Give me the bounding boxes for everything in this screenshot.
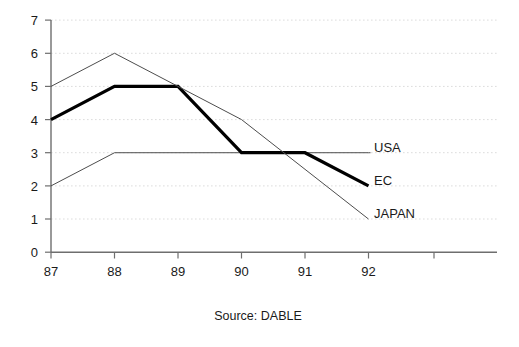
y-tick-label-0: 0 <box>31 245 38 260</box>
x-tick-marks <box>51 252 434 258</box>
y-tick-marks <box>45 20 51 252</box>
x-tick-label-92: 92 <box>361 264 375 279</box>
gridlines <box>51 20 497 219</box>
x-tick-label-91: 91 <box>298 264 312 279</box>
x-tick-label-88: 88 <box>107 264 121 279</box>
y-tick-label-6: 6 <box>31 46 38 61</box>
y-tick-label-3: 3 <box>31 146 38 161</box>
x-tick-label-90: 90 <box>234 264 248 279</box>
series-leaders <box>369 153 371 221</box>
y-tick-label-5: 5 <box>31 79 38 94</box>
y-tick-label-1: 1 <box>31 212 38 227</box>
series-label-japan: JAPAN <box>374 206 415 221</box>
y-tick-labels: 7 6 5 4 3 2 1 0 <box>31 13 38 260</box>
series-lines <box>51 53 371 219</box>
y-tick-label-2: 2 <box>31 179 38 194</box>
series-label-usa: USA <box>374 140 401 155</box>
series-line-usa <box>51 153 371 186</box>
series-line-japan <box>51 53 369 219</box>
x-tick-label-89: 89 <box>171 264 185 279</box>
series-labels: USA EC JAPAN <box>374 140 415 221</box>
x-tick-label-87: 87 <box>44 264 58 279</box>
line-chart: 7 6 5 4 3 2 1 0 87 88 89 90 91 92 <box>0 0 519 347</box>
source-caption: Source: DABLE <box>214 309 302 323</box>
leader-ec <box>369 186 371 187</box>
y-tick-label-4: 4 <box>31 113 38 128</box>
x-tick-labels: 87 88 89 90 91 92 <box>44 264 376 279</box>
y-tick-label-7: 7 <box>31 13 38 28</box>
series-label-ec: EC <box>374 173 392 188</box>
chart-figure: 7 6 5 4 3 2 1 0 87 88 89 90 91 92 <box>0 0 519 347</box>
series-line-ec <box>51 86 369 185</box>
leader-japan <box>369 219 371 221</box>
